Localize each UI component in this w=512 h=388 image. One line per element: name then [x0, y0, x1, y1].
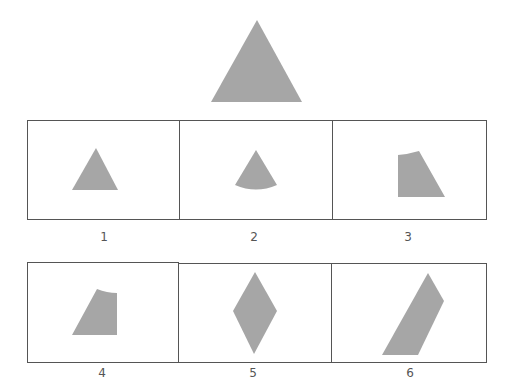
puzzle-diagram [0, 0, 512, 388]
option-box-2[interactable] [180, 121, 333, 220]
option-label-4: 4 [92, 366, 112, 380]
option-label-2: 2 [244, 230, 264, 244]
option-box-3[interactable] [333, 121, 487, 220]
option-box-5[interactable] [179, 264, 332, 363]
option-box-1[interactable] [28, 121, 180, 220]
option-label-1: 1 [94, 230, 114, 244]
option-label-6: 6 [400, 366, 420, 380]
option-box-4[interactable] [28, 263, 179, 363]
option-label-3: 3 [398, 230, 418, 244]
option-box-6[interactable] [332, 264, 487, 363]
option-label-5: 5 [243, 366, 263, 380]
reference-triangle [211, 20, 302, 102]
